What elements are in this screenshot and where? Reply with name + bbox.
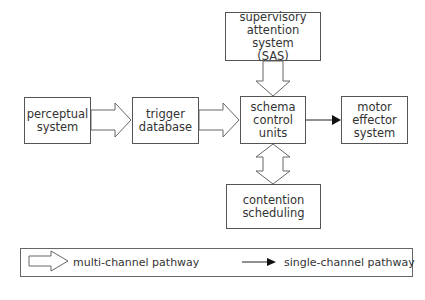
node-label-line: system (352, 127, 397, 140)
node-label-line: (SAS) (226, 50, 320, 63)
node-label-line: units (251, 127, 296, 140)
node-label-line: effector (352, 114, 397, 127)
legend-single-channel-label: single-channel pathway (284, 256, 415, 269)
node-label-line: supervisory (226, 11, 320, 24)
node-label-line: motor (352, 101, 397, 114)
node-label-line: system (27, 121, 89, 134)
node-trigger-database: trigger database (132, 97, 199, 144)
arrowhead-icon (332, 115, 341, 125)
multi-channel-arrow-perceptual-to-trigger (91, 103, 131, 137)
legend-multi-channel-label: multi-channel pathway (73, 256, 199, 269)
node-perceptual-system: perceptual system (24, 97, 91, 144)
node-label-line: perceptual (27, 108, 89, 121)
node-label-line: database (139, 121, 192, 134)
node-motor-effector-system: motor effector system (341, 96, 408, 144)
multi-channel-arrow-schema-contention-bidirectional (256, 144, 290, 184)
node-supervisory-attention-system: supervisory attention system (SAS) (225, 12, 321, 61)
node-label-line: trigger (139, 108, 192, 121)
node-contention-scheduling: contention scheduling (226, 184, 321, 229)
node-label-line: attention system (226, 24, 320, 50)
node-label-line: scheduling (242, 207, 304, 220)
node-label-line: contention (242, 194, 304, 207)
multi-channel-arrow-trigger-to-schema (199, 103, 239, 137)
legend: multi-channel pathway single-channel pat… (20, 248, 413, 277)
node-label-line: schema (251, 101, 296, 114)
node-label-line: control (251, 114, 296, 127)
node-schema-control-units: schema control units (240, 96, 306, 144)
multi-channel-arrow-sas-to-schema (256, 61, 290, 96)
